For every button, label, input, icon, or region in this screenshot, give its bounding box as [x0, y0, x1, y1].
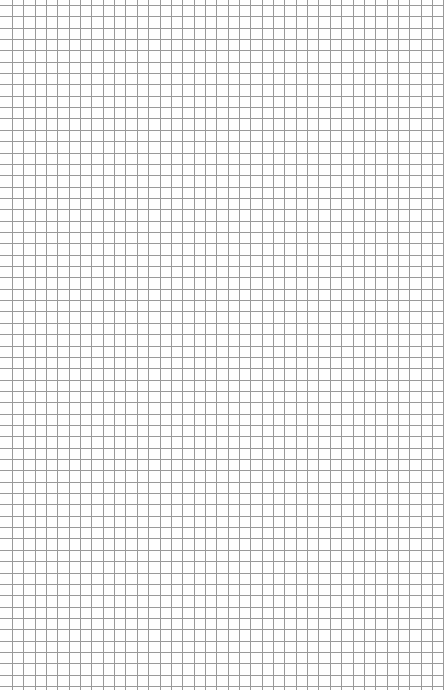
graph-paper-sheet	[0, 0, 444, 690]
grid-lines	[0, 0, 444, 690]
